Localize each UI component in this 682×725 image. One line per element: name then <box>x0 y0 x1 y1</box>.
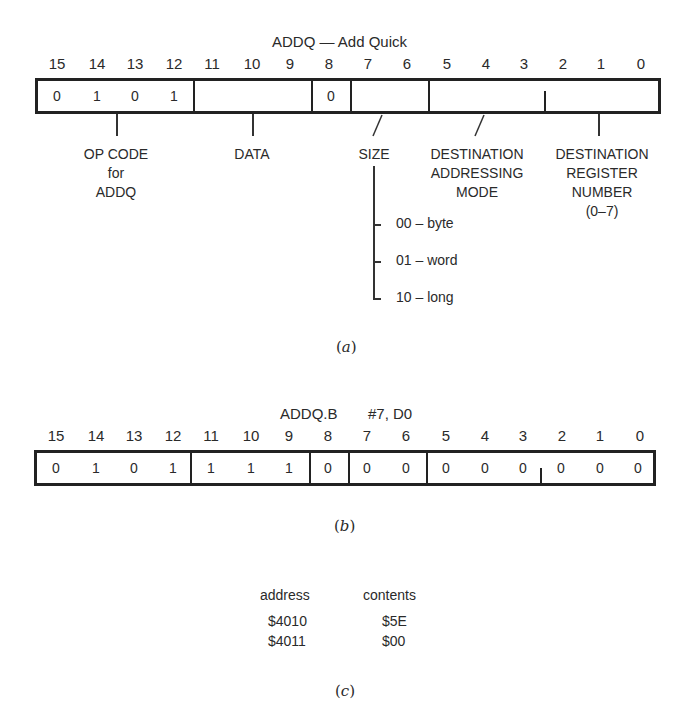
caption-a: (a) <box>336 338 357 356</box>
field-divider <box>309 450 311 486</box>
bit-value: 1 <box>158 460 188 476</box>
label-line: OP CODE <box>66 145 166 164</box>
bit-number: 2 <box>547 427 577 444</box>
table-cell-contents: $5E <box>382 613 407 629</box>
bit-number: 12 <box>159 55 189 72</box>
bit-value: 0 <box>623 460 653 476</box>
dest-reg-label: DESTINATION REGISTER NUMBER (0–7) <box>544 145 660 221</box>
label-line: DESTINATION <box>417 145 537 164</box>
bit-number: 13 <box>120 55 150 72</box>
bit-number: 15 <box>41 427 71 444</box>
size-options-bracket <box>373 166 375 299</box>
label-line: REGISTER <box>544 164 660 183</box>
bit-value: 1 <box>236 460 266 476</box>
bit-number: 6 <box>392 55 422 72</box>
bit-value: 0 <box>316 88 346 104</box>
size-option-long: 10 – long <box>396 289 454 305</box>
bracket-tick <box>373 261 381 263</box>
bit-number: 11 <box>197 55 227 72</box>
bit-number: 7 <box>353 55 383 72</box>
bit-number: 0 <box>626 55 656 72</box>
bit-value: 1 <box>82 88 112 104</box>
bracket-tick <box>373 224 381 226</box>
size-leader-line <box>370 114 384 138</box>
label-line: (0–7) <box>544 202 660 221</box>
bit-value: 1 <box>274 460 304 476</box>
data-leader-line <box>252 114 254 136</box>
caption-c: (c) <box>335 682 355 700</box>
bit-number: 8 <box>313 427 343 444</box>
field-divider <box>348 450 350 486</box>
bit-number: 6 <box>391 427 421 444</box>
figure-b-mnemonic: ADDQ.B <box>280 405 338 422</box>
bit-value: 1 <box>196 460 226 476</box>
bit-number: 5 <box>431 427 461 444</box>
size-label: SIZE <box>352 145 396 164</box>
bit-value: 0 <box>470 460 500 476</box>
size-option-word: 01 – word <box>396 252 457 268</box>
field-divider <box>350 78 352 114</box>
label-line: for <box>66 164 166 183</box>
table-cell-contents: $00 <box>382 633 405 649</box>
opcode-leader-line <box>116 114 118 136</box>
bit-value: 1 <box>81 460 111 476</box>
caption-b: (b) <box>334 517 355 535</box>
bit-number: 1 <box>585 427 615 444</box>
bit-value: 0 <box>431 460 461 476</box>
bit-number: 11 <box>196 427 226 444</box>
size-option-byte: 00 – byte <box>396 215 454 231</box>
bit-value: 0 <box>546 460 576 476</box>
table-cell-address: $4011 <box>268 633 306 649</box>
figure-b-operands: #7, D0 <box>368 405 412 422</box>
bit-number: 10 <box>237 55 267 72</box>
field-divider <box>311 78 313 114</box>
table-cell-address: $4010 <box>268 613 307 629</box>
dest-mode-leader-line <box>472 114 486 138</box>
bit-number: 3 <box>509 55 539 72</box>
bit-value: 0 <box>41 460 71 476</box>
label-line: ADDRESSING <box>417 164 537 183</box>
label-line: DESTINATION <box>544 145 660 164</box>
bit-number: 5 <box>432 55 462 72</box>
bit-value: 0 <box>313 460 343 476</box>
field-divider <box>190 450 192 486</box>
column-header-address: address <box>260 587 310 603</box>
field-divider <box>428 78 430 114</box>
bit-number: 15 <box>42 55 72 72</box>
bit-value: 0 <box>585 460 615 476</box>
bit-value: 1 <box>159 88 189 104</box>
opcode-label: OP CODE for ADDQ <box>66 145 166 202</box>
field-divider <box>193 78 195 114</box>
label-line: MODE <box>417 183 537 202</box>
bit-number: 10 <box>236 427 266 444</box>
bit-number: 9 <box>274 427 304 444</box>
label-line: NUMBER <box>544 183 660 202</box>
field-half-divider <box>544 91 546 111</box>
bit-value: 0 <box>391 460 421 476</box>
bit-value: 0 <box>120 88 150 104</box>
bit-number: 4 <box>471 55 501 72</box>
bit-number: 13 <box>119 427 149 444</box>
column-header-contents: contents <box>363 587 416 603</box>
bit-number: 12 <box>158 427 188 444</box>
label-line: ADDQ <box>66 183 166 202</box>
bit-value: 0 <box>42 88 72 104</box>
bit-number: 0 <box>625 427 655 444</box>
bit-number: 1 <box>586 55 616 72</box>
bit-number: 4 <box>470 427 500 444</box>
bit-number: 14 <box>82 55 112 72</box>
bracket-tick <box>373 298 381 300</box>
figure-a-title: ADDQ — Add Quick <box>272 33 407 50</box>
bit-number: 2 <box>548 55 578 72</box>
field-divider <box>426 450 428 486</box>
bit-number: 3 <box>508 427 538 444</box>
bit-value: 0 <box>508 460 538 476</box>
bit-number: 7 <box>352 427 382 444</box>
dest-reg-leader-line <box>598 114 600 136</box>
field-half-divider <box>540 468 542 486</box>
bit-number: 9 <box>275 55 305 72</box>
bit-value: 0 <box>119 460 149 476</box>
dest-mode-label: DESTINATION ADDRESSING MODE <box>417 145 537 202</box>
bit-number: 14 <box>81 427 111 444</box>
data-label: DATA <box>222 145 282 164</box>
